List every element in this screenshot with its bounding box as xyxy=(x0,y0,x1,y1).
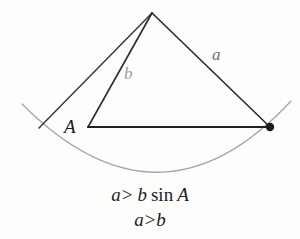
angle-a-label: A xyxy=(64,117,76,136)
intersection-point-marker xyxy=(266,123,274,131)
figure-page: a b A a>bsinA a>b xyxy=(0,0,300,239)
side-a-segment xyxy=(152,13,270,127)
caption-1-lhs: a xyxy=(111,184,121,205)
caption-line-2: a>b xyxy=(0,207,300,232)
caption-line-1: a>bsinA xyxy=(0,182,300,207)
side-b-segment xyxy=(88,13,152,127)
caption-1-operator: > xyxy=(121,184,134,205)
side-a-label: a xyxy=(212,46,221,63)
caption: a>bsinA a>b xyxy=(0,182,300,232)
side-b-label: b xyxy=(124,65,133,82)
arc-radius-a xyxy=(22,101,291,172)
caption-2-rhs: b xyxy=(156,209,166,230)
caption-1-rhs-var: b xyxy=(137,184,147,205)
caption-1-function: sin xyxy=(151,184,173,205)
caption-1-argument: A xyxy=(177,184,189,205)
caption-2-operator: > xyxy=(144,209,157,230)
caption-2-lhs: a xyxy=(134,209,144,230)
alternate-side-segment xyxy=(39,13,152,128)
